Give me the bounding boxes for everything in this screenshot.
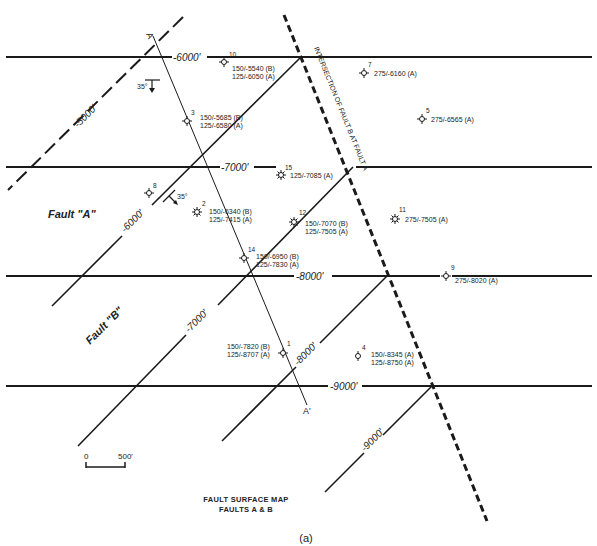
- well-number-2: 2: [202, 200, 206, 207]
- dip-label-1: 35°: [137, 83, 148, 90]
- well-1-line2: 125/-8707 (A): [227, 351, 270, 359]
- well-number-5: 5: [426, 107, 430, 114]
- contour-label-9000: -9000': [330, 381, 359, 392]
- well-1-line1: 150/-7820 (B): [227, 343, 270, 351]
- diagonal-contour-5000: [8, 17, 183, 190]
- well-icon-11[interactable]: [390, 214, 400, 224]
- fault-a-label: Fault "A": [48, 208, 96, 220]
- well-icon-5[interactable]: [417, 114, 427, 124]
- diag-contour-label-6000: -6000': [119, 206, 147, 234]
- map-title-line2: FAULTS A & B: [219, 505, 273, 514]
- well-number-7: 7: [368, 61, 372, 68]
- well-number-14: 14: [248, 246, 256, 253]
- contour-label-7000: -7000': [221, 162, 250, 173]
- diag-contour-label-8000: -8000': [292, 339, 320, 367]
- well-5-line1: 275/-6565 (A): [431, 116, 474, 124]
- well-icon-2[interactable]: [192, 207, 202, 217]
- well-icon-7[interactable]: [359, 68, 369, 78]
- well-icon-10[interactable]: [219, 57, 229, 67]
- well-2-line2: 125/-7415 (A): [209, 216, 252, 224]
- well-icon-15[interactable]: [276, 170, 286, 180]
- well-number-8: 8: [153, 182, 157, 189]
- well-3-line2: 125/-6580 (A): [200, 122, 243, 130]
- well-2-line1: 150/-6340 (B): [209, 208, 252, 216]
- well-11-line1: 275/-7505 (A): [405, 216, 448, 224]
- well-number-12: 12: [299, 209, 307, 216]
- well-4-line2: 125/-8750 (A): [371, 359, 414, 367]
- scale-start-label: 0: [84, 452, 89, 461]
- fault-surface-map: -6000' -7000' -8000' -9000' -5000' -6000…: [0, 0, 597, 546]
- well-number-9: 9: [451, 264, 455, 271]
- contour-label-6000: -6000': [173, 52, 202, 63]
- well-15-line1: 125/-7085 (A): [290, 172, 333, 180]
- well-number-3: 3: [191, 109, 195, 116]
- map-title-line1: FAULT SURFACE MAP: [203, 495, 288, 504]
- scale-bar: [86, 462, 125, 468]
- section-end-label: A': [303, 406, 311, 416]
- scale-end-label: 500': [118, 452, 133, 461]
- well-icon-4[interactable]: [356, 351, 361, 361]
- well-14-line2: 125/-7830 (A): [256, 261, 299, 269]
- well-14-line1: 150/-6950 (B): [256, 253, 299, 261]
- diag-contour-label-5000: -5000': [72, 101, 100, 129]
- well-12-line2: 125/-7505 (A): [305, 228, 348, 236]
- well-4-line1: 150/-8345 (A): [371, 351, 414, 359]
- well-3-line1: 150/-5685 (B): [200, 114, 243, 122]
- well-12-line1: 150/-7070 (B): [305, 220, 348, 228]
- dip-label-2: 35°: [177, 193, 188, 200]
- well-9-line1: 275/-8020 (A): [455, 277, 498, 285]
- diagonal-contour-6000: [52, 58, 300, 306]
- well-number-15: 15: [285, 164, 293, 171]
- well-10-line1: 150/-5540 (B): [232, 65, 275, 73]
- well-icon-3[interactable]: [182, 116, 192, 126]
- diag-contour-label-7000: -7000': [183, 306, 211, 334]
- figure-caption: (a): [299, 532, 312, 544]
- diag-contour-label-9000: -9000': [359, 425, 387, 453]
- well-7-line1: 275/-6160 (A): [374, 70, 417, 78]
- well-number-4: 4: [362, 344, 366, 351]
- contour-label-8000: -8000': [296, 271, 325, 282]
- well-number-1: 1: [287, 340, 291, 347]
- well-icon-9[interactable]: [441, 271, 451, 281]
- well-icon-8[interactable]: [144, 188, 154, 198]
- well-icon-12[interactable]: [289, 217, 299, 227]
- fault-intersection-line: [284, 15, 487, 521]
- well-number-10: 10: [229, 51, 237, 58]
- fault-b-label: Fault "B": [83, 304, 126, 347]
- well-number-11: 11: [399, 206, 406, 213]
- well-10-line2: 125/-6050 (A): [232, 73, 275, 81]
